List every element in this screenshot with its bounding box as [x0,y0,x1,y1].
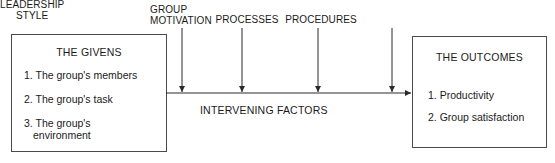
givens-item-members: 1. The group's members [24,70,137,82]
label-procedures: PROCEDURES [285,15,357,26]
label-leadership-style: LEADERSHIP STYLE [0,0,64,21]
givens-item-task: 2. The group's task [24,94,113,106]
outcomes-item-productivity: 1. Productivity [428,90,494,102]
givens-box: THE GIVENS 1. The group's members 2. The… [11,34,167,152]
outcomes-item-group-satisfaction: 2. Group satisfaction [428,112,524,124]
outcomes-box: THE OUTCOMES 1. Productivity 2. Group sa… [412,36,547,148]
outcomes-box-title: THE OUTCOMES [413,51,546,63]
givens-box-title: THE GIVENS [12,46,166,58]
label-group-motivation: GROUP MOTIVATION [150,5,218,26]
givens-item-environment: 3. The group'senvironment [24,118,91,141]
givens-item-environment-line1: 3. The group's [24,117,91,129]
givens-item-environment-line2: environment [24,130,91,142]
label-processes: PROCESSES [212,15,282,26]
label-intervening-factors: INTERVENING FACTORS [200,104,328,116]
group-effectiveness-diagram: THE GIVENS 1. The group's members 2. The… [0,0,555,163]
